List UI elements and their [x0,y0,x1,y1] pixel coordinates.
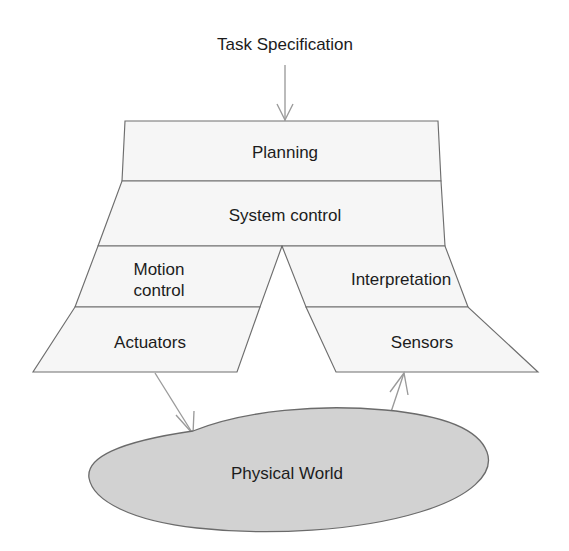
actuators-output-arrow [155,373,194,434]
physical-world-label: Physical World [231,464,343,483]
layer-label-planning: Planning [252,143,318,162]
actuators-output-arrow-shaft [155,373,193,434]
sensors-input-arrow-shaft [390,373,404,415]
layer-label-sensors: Sensors [391,333,453,352]
architecture-diagram: Task Specification Planning System contr… [0,0,569,551]
diagram-canvas: Task Specification Planning System contr… [0,0,569,551]
layer-label-actuators: Actuators [114,333,186,352]
task-specification-label: Task Specification [217,35,353,54]
layer-label-system-control: System control [229,206,341,225]
task-input-arrow [277,65,293,120]
sensors-input-arrow [390,373,408,415]
layer-label-interpretation: Interpretation [351,270,451,289]
layer-label-motion-control-line2: control [133,281,184,300]
layer-label-motion-control-line1: Motion [133,260,184,279]
sensors-input-arrow-head [390,373,408,395]
